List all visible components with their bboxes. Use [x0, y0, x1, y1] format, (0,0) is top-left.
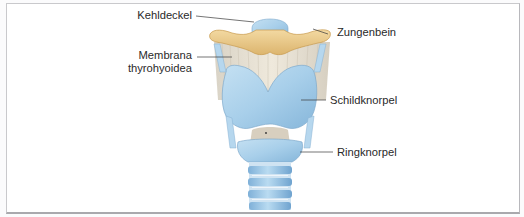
- label-ringknorpel: Ringknorpel: [337, 146, 397, 159]
- label-schildknorpel: Schildknorpel: [330, 94, 397, 107]
- trachea-shape: [248, 162, 292, 210]
- label-kehldeckel: Kehldeckel: [120, 9, 192, 22]
- label-membrana-line1: Membrana: [112, 49, 192, 62]
- cricoid-cartilage-shape: [237, 139, 302, 162]
- label-zungenbein: Zungenbein: [337, 26, 396, 39]
- larynx-illustration: [0, 0, 524, 217]
- label-membrana-line2: thyrohyoidea: [112, 62, 192, 75]
